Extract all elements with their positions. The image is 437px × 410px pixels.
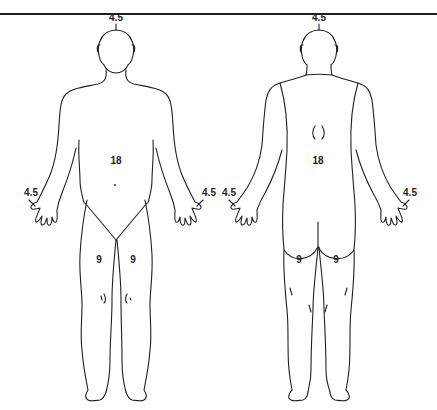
back-figure: 4.5 18 4.5 4.5 9 9	[222, 12, 417, 401]
back-calf-marks	[290, 288, 347, 312]
front-knee-marks	[101, 294, 131, 303]
front-right-leg-label: 9	[96, 254, 102, 265]
back-left-leg-label: 9	[296, 254, 302, 265]
rule-of-nines-diagram: 4.5 18 4.5 4.5 9 9 4.5 18 4.5 4.5 9 9	[0, 0, 437, 410]
back-inner-legs	[308, 247, 330, 392]
front-right-arm-label: 4.5	[24, 187, 38, 198]
front-body-outline	[31, 70, 201, 225]
front-head-label: 4.5	[109, 12, 123, 23]
front-torso-sides	[79, 140, 154, 401]
back-buttocks-outline	[284, 222, 354, 259]
back-left-arm-label: 4.5	[222, 187, 236, 198]
front-left-leg-label: 9	[130, 254, 136, 265]
back-body-outline	[231, 74, 407, 225]
front-left-arm-label: 4.5	[202, 187, 216, 198]
back-right-leg-label: 9	[333, 254, 339, 265]
front-figure: 4.5 18 4.5 4.5 9 9	[24, 12, 216, 401]
front-head-outline	[97, 30, 135, 73]
front-navel	[114, 184, 116, 186]
back-right-arm-label: 4.5	[403, 187, 417, 198]
back-torso-sides	[280, 83, 358, 401]
back-head-outline	[300, 30, 338, 75]
front-inner-legs	[106, 240, 126, 392]
back-spine-marks	[313, 126, 325, 139]
front-trunk-label: 18	[110, 155, 122, 166]
back-trunk-label: 18	[312, 155, 324, 166]
back-head-label: 4.5	[312, 12, 326, 23]
front-groin-line	[85, 203, 147, 240]
